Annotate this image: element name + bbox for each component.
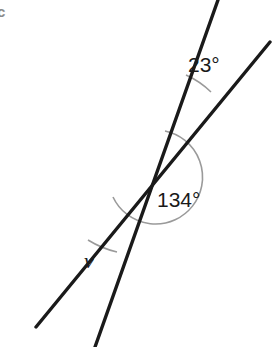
geometry-figure: c 23° 134° v [0,0,272,347]
angle-label-134: 134° [157,189,200,210]
angle-diagram [0,0,272,347]
shallow-line [36,42,270,327]
diagram-lines [36,0,270,347]
angle-label-v: v [84,250,94,272]
part-label-c: c [0,4,5,19]
angle-label-23: 23° [188,54,220,75]
angle-arcs [88,75,211,252]
